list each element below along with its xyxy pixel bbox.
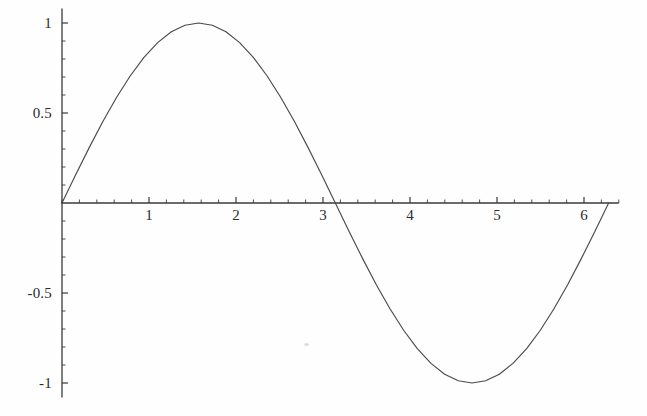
x-tick-label-4: 4 <box>406 207 414 224</box>
y-tick-label-1: 1 <box>44 15 52 32</box>
scan-speck <box>304 343 309 346</box>
axes-group <box>61 9 619 398</box>
x-tick-label-5: 5 <box>493 207 501 224</box>
x-tick-label-1: 1 <box>145 207 153 224</box>
x-tick-label-6: 6 <box>580 207 588 224</box>
sine-plot-figure: 1 2 3 4 5 6 1 0.5 -0.5 -1 <box>0 0 647 416</box>
y-tick-label-0-5: 0.5 <box>33 105 52 122</box>
x-tick-label-3: 3 <box>319 207 327 224</box>
y-tick-label-neg-0-5: -0.5 <box>27 285 52 302</box>
y-tick-label-neg-1: -1 <box>39 375 52 392</box>
x-tick-label-2: 2 <box>232 207 240 224</box>
